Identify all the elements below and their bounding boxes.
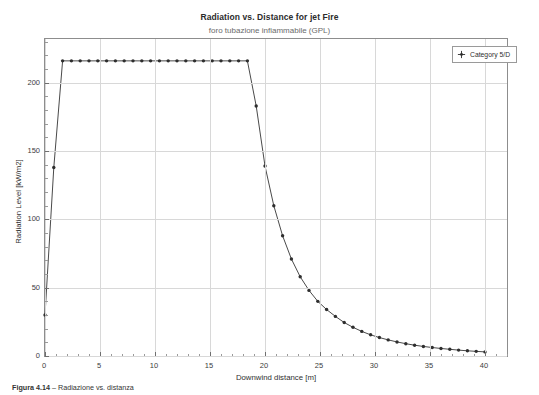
gridline-horizontal <box>45 151 507 152</box>
data-point-marker <box>202 59 205 62</box>
y-tick-label: 200 <box>12 77 40 86</box>
legend: Category 5/D <box>452 46 517 63</box>
gridline-vertical <box>375 39 376 356</box>
x-tick-label: 15 <box>205 361 213 370</box>
y-tick-minor <box>45 55 48 56</box>
caption-text: – Radiazione vs. distanza <box>52 383 134 392</box>
gridline-vertical <box>430 39 431 356</box>
data-point-marker <box>149 59 152 62</box>
data-point-marker <box>299 275 302 278</box>
y-tick-major <box>45 288 49 289</box>
data-point-marker <box>369 333 372 336</box>
gridline-vertical <box>265 39 266 356</box>
x-tick-label: 0 <box>42 361 46 370</box>
data-point-marker <box>387 338 390 341</box>
x-tick-label: 25 <box>315 361 323 370</box>
x-tick-label: 10 <box>150 361 158 370</box>
x-tick-label: 35 <box>425 361 433 370</box>
gridline-vertical <box>100 39 101 356</box>
y-tick-minor <box>45 192 48 193</box>
y-tick-minor <box>45 301 48 302</box>
data-point-marker <box>422 345 425 348</box>
data-point-marker <box>246 59 249 62</box>
data-point-marker <box>167 59 170 62</box>
y-tick-minor <box>45 206 48 207</box>
data-point-marker <box>378 336 381 339</box>
y-axis-title: Radiation Level [kW/m2] <box>14 112 23 292</box>
data-point-marker <box>61 59 64 62</box>
data-point-marker <box>228 59 231 62</box>
data-point-marker <box>211 59 214 62</box>
caption-label: Figura 4.14 <box>12 383 50 392</box>
gridline-horizontal <box>45 83 507 84</box>
y-tick-minor <box>45 274 48 275</box>
chart-title: Radiation vs. Distance for jet Fire <box>0 12 539 22</box>
data-point-marker <box>193 59 196 62</box>
data-point-marker <box>439 347 442 350</box>
gridline-vertical <box>485 39 486 356</box>
data-series-category-5d <box>45 39 507 356</box>
data-point-marker <box>413 344 416 347</box>
y-tick-minor <box>45 110 48 111</box>
data-point-marker <box>158 59 161 62</box>
y-tick-minor <box>45 342 48 343</box>
data-point-marker <box>290 257 293 260</box>
data-point-marker <box>307 289 310 292</box>
y-tick-minor <box>45 69 48 70</box>
data-point-marker <box>87 59 90 62</box>
y-tick-label: 150 <box>12 146 40 155</box>
data-point-marker <box>316 300 319 303</box>
y-tick-minor <box>45 233 48 234</box>
gridline-horizontal <box>45 219 507 220</box>
y-tick-minor <box>45 137 48 138</box>
x-tick-label: 30 <box>370 361 378 370</box>
plus-diamond-icon <box>457 50 466 59</box>
y-tick-minor <box>45 315 48 316</box>
y-tick-major <box>45 219 49 220</box>
x-tick-label: 40 <box>480 361 488 370</box>
y-tick-label: 0 <box>12 351 40 360</box>
data-point-marker <box>79 59 82 62</box>
figure-container: Radiation vs. Distance for jet Fire foro… <box>0 0 539 395</box>
data-point-marker <box>395 340 398 343</box>
y-tick-label: 50 <box>12 282 40 291</box>
data-point-marker <box>70 59 73 62</box>
x-axis-title: Downwind distance [m] <box>44 373 508 382</box>
data-point-marker <box>343 321 346 324</box>
y-tick-minor <box>45 247 48 248</box>
legend-label: Category 5/D <box>470 51 510 58</box>
figure-caption: Figura 4.14 – Radiazione vs. distanza <box>12 383 134 392</box>
data-point-marker <box>475 350 478 353</box>
data-point-marker <box>334 315 337 318</box>
plot-area <box>44 38 508 357</box>
data-point-marker <box>184 59 187 62</box>
data-point-marker <box>360 330 363 333</box>
data-point-marker <box>351 326 354 329</box>
gridline-horizontal <box>45 356 507 357</box>
data-point-marker <box>255 104 258 107</box>
x-tick-minor <box>507 354 508 357</box>
gridline-vertical <box>320 39 321 356</box>
y-tick-minor <box>45 124 48 125</box>
y-tick-minor <box>45 42 48 43</box>
data-point-marker <box>105 59 108 62</box>
data-point-marker <box>175 59 178 62</box>
chart-subtitle: foro tubazione infiammabile (GPL) <box>0 26 539 35</box>
data-point-marker <box>237 59 240 62</box>
data-point-marker <box>431 346 434 349</box>
x-tick-label: 20 <box>260 361 268 370</box>
y-tick-minor <box>45 260 48 261</box>
y-tick-major <box>45 83 49 84</box>
gridline-vertical <box>45 39 46 356</box>
gridline-horizontal <box>45 288 507 289</box>
data-point-marker <box>219 59 222 62</box>
data-point-marker <box>466 349 469 352</box>
data-point-marker <box>325 308 328 311</box>
data-point-marker <box>404 342 407 345</box>
data-point-marker <box>140 59 143 62</box>
data-point-marker <box>131 59 134 62</box>
gridline-vertical <box>155 39 156 356</box>
y-tick-minor <box>45 178 48 179</box>
y-tick-minor <box>45 329 48 330</box>
data-point-marker <box>96 59 99 62</box>
